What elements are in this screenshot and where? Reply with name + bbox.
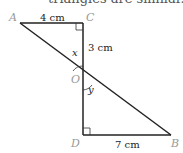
point-label-b: B [170, 137, 179, 150]
angle-y-label: y [87, 84, 94, 95]
point-label-o: O [71, 73, 80, 86]
length-db: 7 cm [115, 139, 140, 150]
angle-x-label: x [72, 47, 78, 58]
right-angle-d [83, 128, 90, 135]
segment-ab [20, 23, 171, 135]
similar-triangles-diagram: A C O D B 4 cm 3 cm 7 cm x y [0, 0, 183, 153]
length-ac: 4 cm [40, 12, 65, 23]
right-angle-c [76, 23, 83, 30]
point-label-d: D [70, 137, 80, 150]
point-label-c: C [86, 11, 95, 24]
point-label-a: A [8, 11, 17, 24]
length-co: 3 cm [88, 42, 113, 53]
